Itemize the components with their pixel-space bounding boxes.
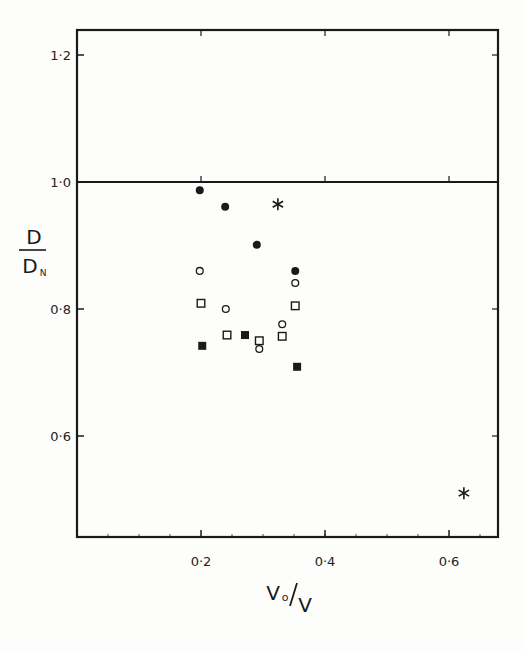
open-circle-marker bbox=[196, 268, 203, 275]
y-tick-label: 0·6 bbox=[50, 429, 71, 444]
open-square-marker bbox=[223, 331, 231, 339]
open-circle-marker bbox=[222, 306, 229, 313]
filled-circle-marker bbox=[221, 203, 229, 211]
data-points bbox=[196, 186, 469, 499]
x-axis-label: V o V bbox=[266, 581, 312, 617]
open-square-marker bbox=[291, 302, 299, 310]
filled-circle-marker bbox=[291, 267, 299, 275]
x-tick-label: 0·2 bbox=[191, 554, 212, 569]
x-axis-ticks: 0·20·40·6 bbox=[108, 30, 480, 569]
open-square-marker bbox=[278, 333, 286, 341]
y-axis-ticks: 0·60·81·01·2 bbox=[50, 48, 498, 444]
open-square-marker bbox=[255, 337, 263, 345]
x-tick-label: 0·6 bbox=[439, 554, 460, 569]
open-square-marker bbox=[197, 299, 205, 307]
y-tick-label: 1·2 bbox=[50, 48, 71, 63]
x-label-slash bbox=[290, 583, 297, 606]
filled-square-marker bbox=[198, 342, 206, 350]
asterisk-marker bbox=[459, 487, 469, 499]
open-circle-marker bbox=[279, 321, 286, 328]
scatter-chart: 0·20·40·6 0·60·81·01·2 D D N V o V bbox=[0, 0, 525, 651]
y-tick-label: 0·8 bbox=[50, 302, 71, 317]
filled-square-marker bbox=[293, 363, 301, 371]
filled-circle-marker bbox=[253, 241, 261, 249]
x-label-subscript: o bbox=[282, 591, 289, 604]
y-tick-label: 1·0 bbox=[50, 175, 71, 190]
filled-square-marker bbox=[241, 331, 249, 339]
y-axis-label: D D N bbox=[19, 225, 46, 278]
x-tick-label: 0·4 bbox=[315, 554, 336, 569]
x-label-numerator: V bbox=[266, 581, 280, 605]
y-label-subscript: N bbox=[40, 268, 47, 278]
open-circle-marker bbox=[256, 346, 263, 353]
y-label-denominator: D bbox=[22, 254, 37, 278]
y-label-numerator: D bbox=[26, 225, 41, 249]
plot-frame bbox=[77, 30, 498, 537]
asterisk-marker bbox=[273, 198, 283, 210]
plot-border bbox=[77, 30, 498, 537]
filled-circle-marker bbox=[196, 186, 204, 194]
x-label-denominator: V bbox=[298, 593, 312, 617]
open-circle-marker bbox=[292, 280, 299, 287]
